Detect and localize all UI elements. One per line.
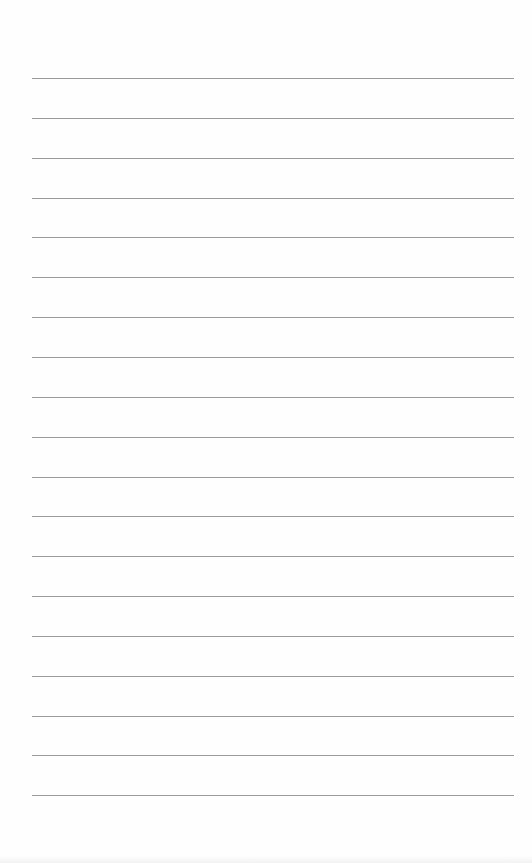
ruled-line	[32, 317, 514, 318]
ruled-line	[32, 556, 514, 557]
ruled-line	[32, 198, 514, 199]
ruled-line	[32, 477, 514, 478]
ruled-line	[32, 795, 514, 796]
ruled-line	[32, 397, 514, 398]
ruled-line	[32, 357, 514, 358]
ruled-line	[32, 158, 514, 159]
ruled-line	[32, 596, 514, 597]
ruled-line	[32, 237, 514, 238]
notepad-page	[0, 0, 532, 863]
ruled-line	[32, 716, 514, 717]
ruled-line	[32, 676, 514, 677]
ruled-line	[32, 516, 514, 517]
ruled-line	[32, 755, 514, 756]
ruled-line	[32, 437, 514, 438]
ruled-line	[32, 118, 514, 119]
page-bottom-edge	[0, 855, 532, 863]
ruled-line	[32, 78, 514, 79]
ruled-line	[32, 277, 514, 278]
ruled-line	[32, 636, 514, 637]
